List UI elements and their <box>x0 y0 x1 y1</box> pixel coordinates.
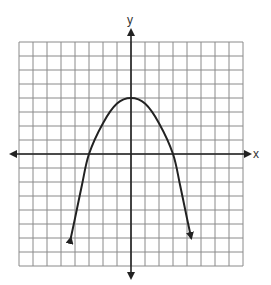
parabola-graph: x y <box>0 0 271 285</box>
x-axis-label: x <box>253 147 259 161</box>
y-axis-label: y <box>127 13 133 27</box>
